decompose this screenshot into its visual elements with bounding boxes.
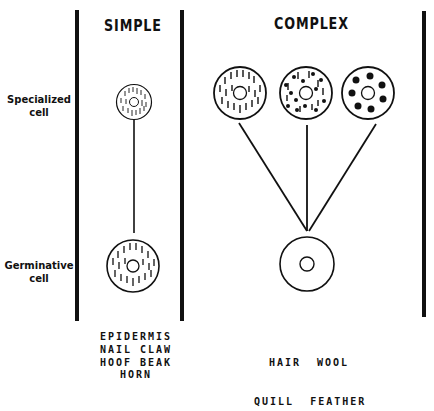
striated-cell-icon	[107, 240, 159, 292]
striated-cell-small-icon	[117, 85, 152, 120]
granular-cell-icon	[342, 67, 394, 119]
connector-complex-right	[309, 124, 376, 231]
caption-complex-products: HAIR WOOL QUILL FEATHER	[254, 330, 364, 411]
plain-cell-icon	[280, 237, 334, 291]
connector-complex-left	[239, 123, 307, 231]
striated-granular-cell-icon	[280, 67, 332, 119]
caption-simple-products: EPIDERMIS NAIL CLAW HOOF BEAK HORN	[86, 330, 186, 380]
striated-cell-icon	[214, 67, 266, 119]
